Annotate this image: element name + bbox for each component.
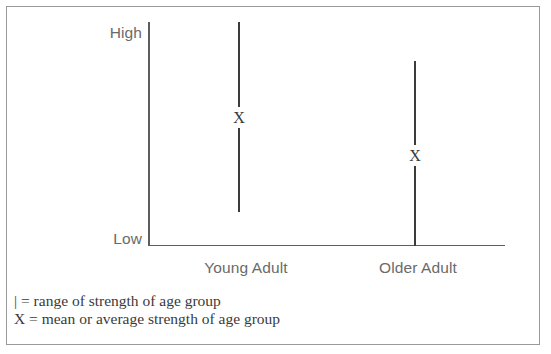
y-axis-line — [148, 22, 150, 246]
x-axis-line — [148, 245, 505, 247]
mean-marker-young-adult: X — [224, 110, 254, 126]
category-label-older-adult: Older Adult — [333, 259, 503, 277]
range-bar-older-adult-upper — [414, 61, 416, 145]
mean-marker-older-adult: X — [400, 148, 430, 164]
range-bar-young-adult-upper — [238, 22, 240, 107]
category-label-young-adult: Young Adult — [161, 259, 331, 277]
legend-entry-mean: X = mean or average strength of age grou… — [14, 310, 414, 328]
legend-entry-range: | = range of strength of age group — [14, 292, 414, 310]
y-axis-low-label: Low — [32, 230, 142, 248]
y-axis-high-label: High — [32, 24, 142, 42]
chart-legend: | = range of strength of age group X = m… — [14, 292, 414, 328]
range-bar-older-adult-lower — [414, 166, 416, 246]
range-bar-young-adult-lower — [238, 128, 240, 212]
chart-figure: High Low X X Young Adult Older Adult | =… — [0, 0, 551, 354]
